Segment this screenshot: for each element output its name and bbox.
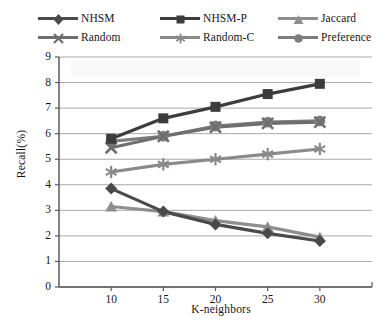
- x-tick-15: 15: [148, 294, 178, 305]
- axes: [55, 57, 372, 291]
- gridlines: [59, 57, 372, 287]
- plot-area: [0, 0, 390, 329]
- y-tick-1: 1: [33, 255, 51, 266]
- y-tick-5: 5: [33, 153, 51, 164]
- x-tick-25: 25: [253, 294, 283, 305]
- series-nhsm: [111, 189, 320, 241]
- y-tick-4: 4: [33, 179, 51, 190]
- x-tick-10: 10: [96, 294, 126, 305]
- y-tick-0: 0: [33, 281, 51, 292]
- y-tick-7: 7: [33, 102, 51, 113]
- y-tick-3: 3: [33, 204, 51, 215]
- x-tick-30: 30: [305, 294, 335, 305]
- x-tick-20: 20: [201, 294, 231, 305]
- y-tick-9: 9: [33, 51, 51, 62]
- markers-random-c: [106, 143, 325, 178]
- y-tick-8: 8: [33, 77, 51, 88]
- y-tick-6: 6: [33, 128, 51, 139]
- y-tick-2: 2: [33, 230, 51, 241]
- recall-vs-k-neighbors-chart: NHSM NHSM-P: [0, 0, 390, 329]
